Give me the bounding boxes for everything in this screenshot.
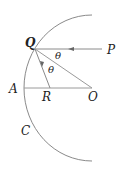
label-o: O (88, 90, 98, 104)
mirror-diagram: Q P A R O C θ θ (0, 0, 122, 171)
label-c: C (21, 124, 30, 138)
label-theta-incident: θ (55, 50, 61, 61)
label-a: A (8, 82, 18, 96)
label-q: Q (25, 36, 36, 50)
label-p: P (106, 43, 116, 57)
label-r: R (41, 90, 51, 104)
label-theta-reflected: θ (48, 64, 54, 75)
arrow-left-icon (68, 47, 74, 51)
normal-line (35, 49, 92, 88)
